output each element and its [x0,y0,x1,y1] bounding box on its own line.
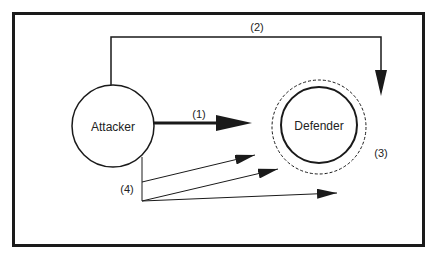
indirect-attack-arrow: (2) [111,21,387,96]
defense-perimeter-label: (3) [374,147,387,159]
defender-label: Defender [294,119,343,133]
direct-attack-label: (1) [192,108,205,120]
multiple-attacks-label: (4) [120,183,133,195]
direct-attack-arrow: (1) [154,108,252,131]
defender-node: Defender [272,80,366,174]
attacker-label: Attacker [91,120,135,134]
indirect-attack-label: (2) [250,21,263,33]
attacker-node: Attacker [72,85,154,167]
attack-diagram: Attacker Defender (1) (2) (3) (4) [0,0,433,256]
multiple-attacks-arrows: (4) [120,155,337,201]
